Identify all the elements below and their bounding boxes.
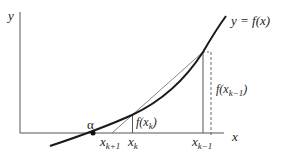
- root-label: α: [87, 117, 94, 132]
- y-axis-label: y: [6, 8, 14, 23]
- x-axis-label: x: [231, 129, 238, 144]
- secant-line: [112, 52, 203, 133]
- f-xk-1-label: f(xk−1): [216, 82, 247, 98]
- xk-plus-1-label: xk+1: [99, 134, 120, 151]
- xk-label: xk: [127, 134, 139, 151]
- curve-label: y = f(x): [229, 13, 270, 28]
- f-xk-label: f(xk): [136, 115, 157, 131]
- secant-method-diagram: y x y = f(x) α xk+1 xk xk−1 f(xk) f(xk−1…: [0, 0, 283, 153]
- xk-minus-1-label: xk−1: [191, 134, 212, 151]
